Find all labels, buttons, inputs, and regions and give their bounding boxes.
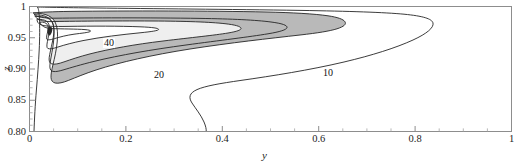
x-tick-label-1: 0.2: [114, 134, 138, 145]
x-tick-label-3: 0.6: [307, 134, 331, 145]
contour-level-label-20: 20: [153, 70, 165, 80]
contour-plot-canvas: [0, 0, 523, 165]
y-tick-label-3: 0.95: [0, 33, 26, 44]
contour-level-label-40: 40: [103, 38, 115, 48]
contour-level-label-10: 10: [322, 68, 334, 78]
x-axis-title: y: [262, 150, 267, 161]
x-tick-label-0: 0: [18, 134, 42, 145]
x-tick-label-4: 0.8: [403, 134, 427, 145]
y-tick-label-4: 1: [0, 2, 26, 13]
x-tick-label-5: 1: [500, 134, 523, 145]
x-tick-label-2: 0.4: [210, 134, 234, 145]
contour-plot-figure: 0.80 0.85 0.90 0.95 1 0 0.2 0.4 0.6 0.8 …: [0, 0, 523, 165]
y-tick-label-1: 0.85: [0, 95, 26, 106]
y-axis-title: z: [1, 62, 12, 76]
